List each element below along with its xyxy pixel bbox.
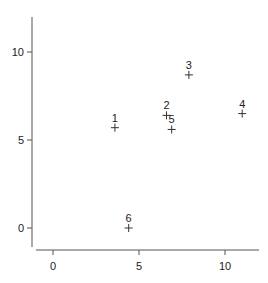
x-tick-label: 10 (219, 260, 231, 272)
x-tick-label: 5 (136, 260, 142, 272)
y-tick-label: 10 (12, 46, 24, 58)
scatter-chart: 0510 0510 123456 (0, 0, 268, 283)
y-tick-label: 5 (18, 134, 24, 146)
point-label: 6 (126, 212, 132, 224)
point-label: 1 (112, 112, 118, 124)
x-axis: 0510 (36, 250, 259, 272)
y-axis: 0510 (12, 17, 32, 247)
chart-canvas: 0510 0510 123456 (0, 0, 268, 283)
point-label: 5 (169, 113, 175, 125)
data-point: 6 (125, 212, 133, 232)
x-tick-label: 0 (50, 260, 56, 272)
y-tick-label: 0 (18, 222, 24, 234)
data-point: 3 (185, 59, 193, 79)
point-label: 2 (163, 99, 169, 111)
data-points: 123456 (111, 59, 246, 232)
point-label: 3 (186, 59, 192, 71)
data-point: 5 (168, 113, 176, 133)
data-point: 1 (111, 112, 119, 132)
data-point: 4 (238, 98, 246, 118)
point-label: 4 (239, 98, 245, 110)
